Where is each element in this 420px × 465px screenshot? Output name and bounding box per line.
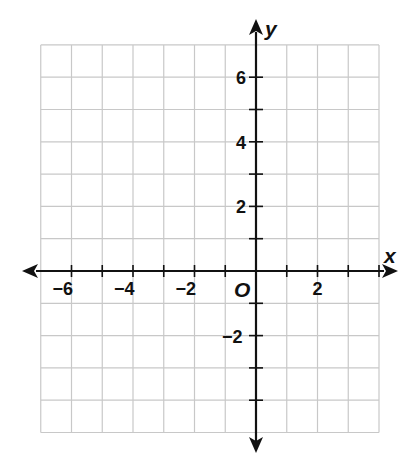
y-tick-label: −2 (222, 328, 243, 346)
y-tick-label: 4 (236, 134, 246, 152)
y-tick-label: 6 (236, 69, 246, 87)
axes (22, 19, 398, 453)
coordinate-plane (0, 0, 420, 465)
x-tick-label: −4 (114, 280, 135, 298)
x-axis-label: x (384, 245, 396, 266)
x-tick-label: −2 (176, 280, 197, 298)
x-axis-left-arrow-icon (22, 264, 38, 278)
x-tick-label: −6 (53, 280, 74, 298)
y-tick-label: 2 (236, 198, 246, 216)
origin-label: O (234, 279, 250, 300)
y-axis-label: y (265, 18, 277, 39)
grid-lines (41, 45, 379, 433)
x-tick-label: 2 (313, 280, 323, 298)
